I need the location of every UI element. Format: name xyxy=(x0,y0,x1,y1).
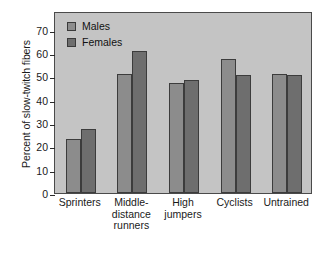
y-axis-tick-label: 70 xyxy=(24,25,48,36)
bar-group xyxy=(221,13,251,193)
y-axis-tick-labels: 010203040506070 xyxy=(24,12,48,194)
y-axis-tick-label: 10 xyxy=(24,165,48,176)
y-axis-tick-label: 60 xyxy=(24,49,48,60)
y-axis-tick-label: 30 xyxy=(24,119,48,130)
y-axis-tick-mark xyxy=(50,102,55,103)
y-axis-tick-label: 20 xyxy=(24,142,48,153)
bar-males xyxy=(272,74,287,193)
legend-swatch-icon xyxy=(67,22,76,31)
legend-item: Females xyxy=(67,35,159,49)
y-axis-tick-label: 0 xyxy=(24,189,48,200)
plot-frame: MalesFemales xyxy=(54,12,312,194)
x-axis-tick-label: Highjumpers xyxy=(157,197,209,220)
bar-males xyxy=(117,74,132,193)
x-axis-tick-labels: SprintersMiddle-distancerunnersHighjumpe… xyxy=(54,197,312,255)
x-axis-tick-label-line: Untrained xyxy=(260,197,312,209)
x-axis-tick-label-line: Middle- xyxy=(106,197,158,209)
y-axis-tick-label: 40 xyxy=(24,95,48,106)
bar-males xyxy=(221,59,236,193)
bar-females xyxy=(287,75,302,193)
bar-females xyxy=(184,80,199,193)
y-axis-tick-mark xyxy=(50,195,55,196)
legend-item-label: Males xyxy=(82,21,110,32)
y-axis-tick-mark xyxy=(50,172,55,173)
y-axis-tick-mark xyxy=(50,32,55,33)
x-axis-tick-label: Untrained xyxy=(260,197,312,209)
legend-item-label: Females xyxy=(82,37,122,48)
y-axis-tick-mark xyxy=(50,55,55,56)
bar-males xyxy=(169,83,184,193)
y-axis-tick-label: 50 xyxy=(24,72,48,83)
x-axis-tick-label-line: runners xyxy=(106,220,158,232)
bar-group xyxy=(169,13,199,193)
x-axis-tick-label: Middle-distancerunners xyxy=(106,197,158,232)
y-axis-tick-mark xyxy=(50,125,55,126)
bar-chart: Percent of slow-twitch fibers 0102030405… xyxy=(0,0,323,256)
bar-females xyxy=(132,51,147,193)
x-axis-tick-label: Sprinters xyxy=(54,197,106,209)
y-axis-tick-mark xyxy=(50,148,55,149)
legend-item: Males xyxy=(67,19,159,33)
y-axis-tick-mark xyxy=(50,78,55,79)
x-axis-tick-label-line: Sprinters xyxy=(54,197,106,209)
bar-group xyxy=(272,13,302,193)
x-axis-tick-label: Cyclists xyxy=(209,197,261,209)
chart-legend: MalesFemales xyxy=(67,19,159,51)
bar-females xyxy=(81,129,96,193)
x-axis-tick-label-line: High xyxy=(157,197,209,209)
bar-females xyxy=(236,75,251,193)
x-axis-tick-label-line: Cyclists xyxy=(209,197,261,209)
legend-swatch-icon xyxy=(67,38,76,47)
x-axis-tick-label-line: jumpers xyxy=(157,209,209,221)
bar-males xyxy=(66,139,81,193)
